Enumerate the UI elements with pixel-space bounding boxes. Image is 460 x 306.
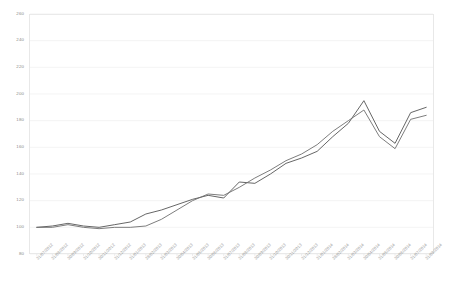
line-chart: 26024022020018016014012010080 31/07/2012…	[0, 0, 460, 306]
y-axis-tick-label: 200	[6, 92, 24, 96]
y-axis-tick-label: 240	[6, 38, 24, 42]
y-axis-tick-label: 80	[6, 252, 24, 256]
series-line-1	[37, 101, 426, 228]
data-series	[37, 101, 426, 229]
gridlines	[30, 14, 433, 254]
y-axis-tick-label: 180	[6, 118, 24, 122]
y-axis-tick-label: 220	[6, 65, 24, 69]
y-axis-tick-label: 100	[6, 225, 24, 229]
y-axis-tick-label: 120	[6, 198, 24, 202]
series-line-2	[37, 110, 426, 229]
y-axis-tick-label: 140	[6, 172, 24, 176]
y-axis-tick-label: 260	[6, 12, 24, 16]
y-axis-tick-label: 160	[6, 145, 24, 149]
